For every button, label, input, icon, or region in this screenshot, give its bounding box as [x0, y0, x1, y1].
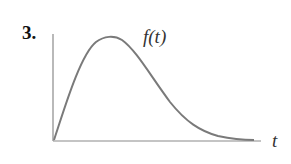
x-axis-label: t: [272, 130, 277, 152]
curve-f-of-t: [54, 37, 254, 140]
curve-label: f(t): [143, 26, 166, 48]
plot-area: [0, 0, 291, 164]
